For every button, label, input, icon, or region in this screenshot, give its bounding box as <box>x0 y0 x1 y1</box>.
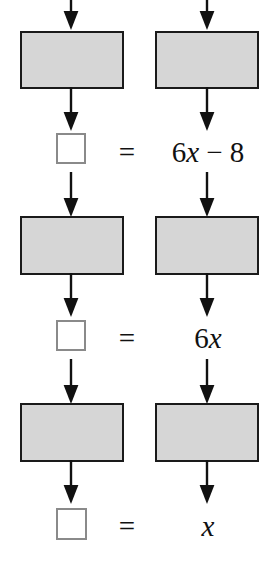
result-square-row1 <box>56 133 86 164</box>
arrow-into-box-row3-right <box>197 359 217 404</box>
expression-row1-term-2: x <box>186 136 199 168</box>
arrow-out-of-box-row2-left <box>61 273 81 317</box>
expression-row2-term-1: 6 <box>194 322 209 354</box>
arrow-into-box-row2-right <box>197 172 217 217</box>
arrow-out-of-box-row3-right <box>197 460 217 504</box>
expression-row1-term-1: 6 <box>172 136 187 168</box>
equals-sign-row2: = <box>112 324 142 353</box>
operation-box-row2-left <box>20 216 124 275</box>
arrow-into-box-row1-left <box>61 0 81 30</box>
equals-sign-row3: = <box>112 512 142 541</box>
expression-row2-term-2: x <box>209 322 222 354</box>
arrow-out-of-box-row3-left <box>61 460 81 504</box>
operation-box-row1-right <box>155 31 259 89</box>
arrow-into-box-row2-left <box>61 172 81 217</box>
arrow-into-box-row3-left <box>61 359 81 404</box>
arrow-out-of-box-row2-right <box>197 273 217 317</box>
result-square-row2 <box>56 320 86 351</box>
expression-row3: x <box>152 512 264 541</box>
expression-row1-term-3: − 8 <box>199 136 244 168</box>
operation-box-row3-left <box>20 403 124 462</box>
equation-flow-diagram: = 6x − 8 = 6x <box>0 0 276 583</box>
operation-box-row2-right <box>155 216 259 275</box>
arrow-into-box-row1-right <box>197 0 217 30</box>
equals-sign-row1: = <box>112 138 142 167</box>
expression-row3-term-1: x <box>202 510 215 542</box>
result-square-row3 <box>56 508 87 540</box>
expression-row2: 6x <box>152 324 264 353</box>
arrow-out-of-box-row1-right <box>197 87 217 131</box>
arrow-out-of-box-row1-left <box>61 87 81 131</box>
operation-box-row1-left <box>20 31 124 89</box>
operation-box-row3-right <box>155 403 259 462</box>
expression-row1: 6x − 8 <box>152 138 264 167</box>
